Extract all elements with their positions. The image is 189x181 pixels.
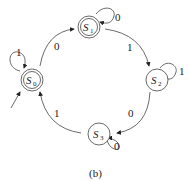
state-s3: S 3 — [88, 123, 110, 145]
label-s2-s3: 0 — [128, 107, 134, 119]
svg-text:3: 3 — [100, 134, 104, 142]
initial-arrow — [11, 92, 20, 108]
svg-text:S: S — [151, 74, 157, 86]
label-s0-loop: 1 — [16, 46, 22, 58]
loop-s1 — [96, 8, 114, 23]
svg-text:S: S — [83, 21, 89, 33]
label-s2-loop: 1 — [179, 65, 185, 77]
svg-text:S: S — [26, 74, 32, 86]
svg-text:0: 0 — [33, 80, 37, 88]
label-s1-s2: 1 — [127, 41, 133, 53]
state-s2: S 2 — [146, 69, 168, 91]
label-s3-s0: 1 — [54, 107, 60, 119]
svg-text:2: 2 — [158, 80, 162, 88]
label-s1-loop: 0 — [115, 11, 121, 23]
label-s0-s1: 0 — [54, 40, 60, 52]
edge-s2-s3 — [117, 92, 150, 133]
edge-s3-s0 — [40, 92, 81, 133]
label-s3-loop: 0 — [114, 140, 120, 152]
svg-text:1: 1 — [90, 27, 94, 35]
svg-text:S: S — [93, 128, 99, 140]
state-diagram: S 0 S 1 S 2 S 3 1 0 0 1 1 0 0 1 (b) — [0, 0, 189, 181]
state-s0: S 0 — [21, 69, 43, 91]
caption: (b) — [89, 167, 102, 180]
state-s1: S 1 — [78, 16, 100, 38]
